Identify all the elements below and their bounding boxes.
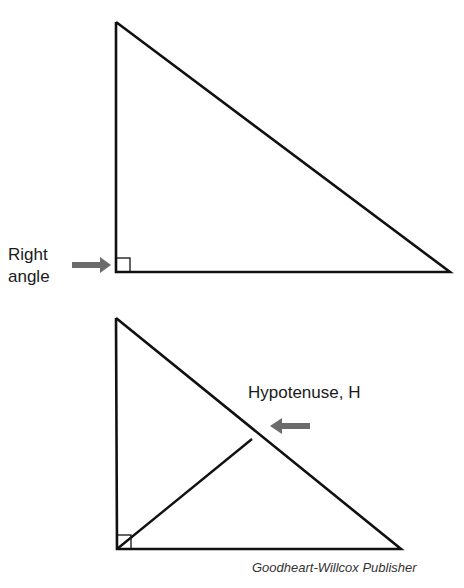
right-angle-label-line2: angle [8, 267, 50, 287]
right-angle-marker [116, 258, 130, 272]
altitude-line [117, 439, 252, 549]
top-right-triangle [116, 22, 450, 272]
right-angle-arrow-icon [72, 257, 111, 273]
right-angle-label-line1: Right [8, 245, 48, 265]
diagram-canvas [0, 0, 464, 588]
hypotenuse-arrow-icon [270, 418, 310, 434]
publisher-credit: Goodheart-Willcox Publisher [252, 560, 417, 575]
bottom-right-triangle [116, 318, 401, 549]
hypotenuse-label: Hypotenuse, H [248, 383, 360, 403]
